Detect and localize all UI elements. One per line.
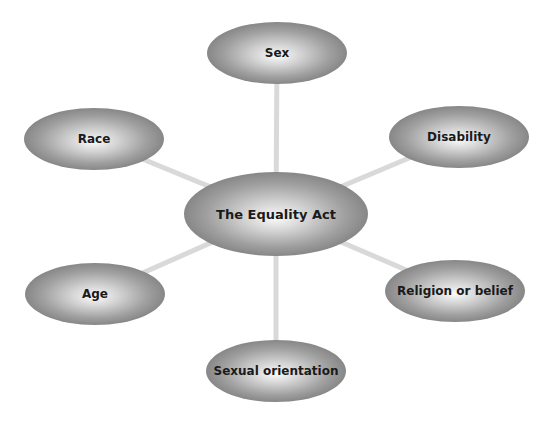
node-disability-label: Disability <box>427 130 491 144</box>
node-age: Age <box>25 263 165 325</box>
node-religion: Religion or belief <box>385 260 525 322</box>
node-sex-label: Sex <box>265 46 290 60</box>
node-center-label: The Equality Act <box>216 207 336 222</box>
node-religion-label: Religion or belief <box>397 284 514 298</box>
equality-act-diagram: Sex Disability Religion or belief Sexual… <box>0 0 552 423</box>
node-sexual-orientation: Sexual orientation <box>206 340 346 402</box>
node-sex: Sex <box>207 22 347 84</box>
node-disability: Disability <box>389 106 529 168</box>
node-age-label: Age <box>82 287 108 301</box>
node-race: Race <box>24 108 164 170</box>
node-race-label: Race <box>78 132 111 146</box>
node-center-equality-act: The Equality Act <box>184 172 368 256</box>
node-sexual-orientation-label: Sexual orientation <box>214 364 339 378</box>
